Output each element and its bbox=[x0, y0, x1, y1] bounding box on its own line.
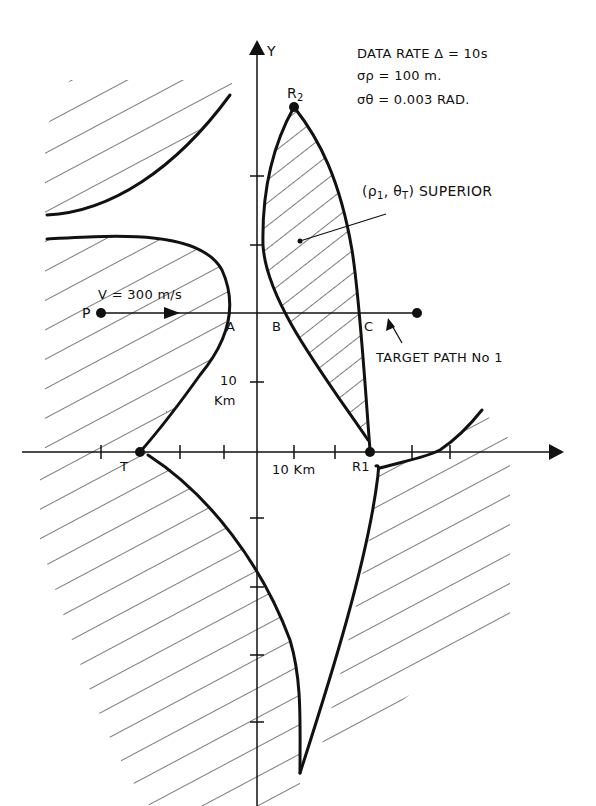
param-sigma-theta: σθ = 0.003 RAD. bbox=[357, 93, 470, 106]
x-unit-label: 10 Km bbox=[272, 463, 315, 476]
hatched-region-left-lobe bbox=[45, 238, 229, 452]
hatched-region-bottom-right bbox=[315, 410, 510, 770]
superior-mid: , θ bbox=[384, 183, 402, 199]
label-b: B bbox=[272, 320, 281, 333]
point-r1-marker bbox=[365, 447, 375, 457]
point-p-marker bbox=[96, 308, 106, 318]
hatched-region-top-left bbox=[45, 80, 232, 215]
label-p: P bbox=[82, 306, 91, 320]
label-r2: R2 bbox=[287, 86, 304, 103]
target-path-pointer bbox=[386, 318, 402, 343]
label-a: A bbox=[226, 320, 235, 333]
superior-annotation: (ρ1, θT) SUPERIOR bbox=[362, 184, 492, 201]
y-unit-value: 10 bbox=[220, 374, 237, 387]
param-sigma-rho: σρ = 100 m. bbox=[357, 69, 442, 82]
point-t-marker bbox=[135, 447, 145, 457]
label-r2-sub: 2 bbox=[297, 92, 304, 103]
superior-suffix: ) SUPERIOR bbox=[408, 183, 492, 199]
label-r1: R1 bbox=[352, 460, 370, 473]
velocity-label: V = 300 m/s bbox=[98, 288, 182, 301]
y-axis-arrow-icon bbox=[249, 40, 265, 55]
hatched-region-bottom-left bbox=[40, 452, 300, 806]
point-r2-marker bbox=[289, 102, 299, 112]
superior-sub1: 1 bbox=[377, 190, 384, 201]
y-unit-suffix: Km bbox=[214, 394, 236, 407]
x-axis-arrow-icon bbox=[549, 444, 564, 460]
superior-prefix: (ρ bbox=[362, 183, 377, 199]
target-path-label: TARGET PATH No 1 bbox=[376, 351, 503, 364]
label-t: T bbox=[120, 460, 128, 473]
diagram-canvas bbox=[0, 0, 596, 806]
y-axis-label: Y bbox=[267, 44, 276, 58]
label-r2-main: R bbox=[287, 85, 297, 101]
hatched-region-superior bbox=[263, 107, 368, 440]
param-data-rate: DATA RATE Δ = 10s bbox=[357, 47, 488, 60]
label-c: C bbox=[364, 320, 373, 333]
path-end-marker bbox=[412, 308, 422, 318]
